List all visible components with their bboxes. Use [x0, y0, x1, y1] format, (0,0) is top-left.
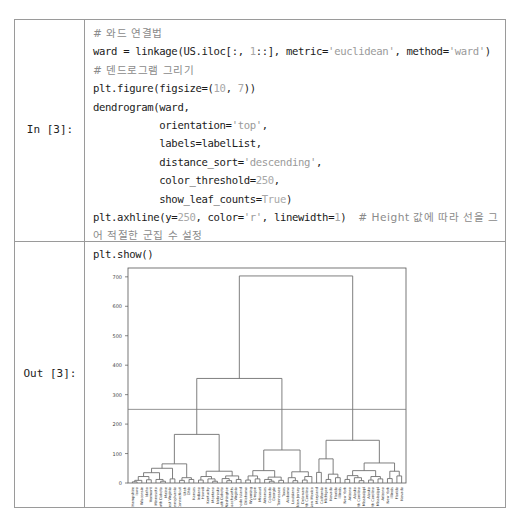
leaf-label: Illinois — [338, 487, 342, 499]
leaf-label: Florida — [395, 487, 399, 499]
leaf-label: Oregon — [253, 487, 257, 500]
leaf-label: Alaska — [367, 487, 371, 499]
leaf-label: Kentucky — [206, 486, 210, 503]
y-tick-label: 0 — [119, 480, 122, 486]
code-token: , — [262, 119, 268, 131]
leaf-label: Nebraska — [216, 487, 220, 504]
dendrogram-link — [255, 479, 260, 483]
code-token: dendrogram(ward, — [93, 101, 189, 113]
code-string: 'top' — [232, 119, 262, 131]
leaf-label: Florida — [334, 487, 338, 499]
leaf-label: New Hampshire — [131, 486, 135, 507]
output-cell: Out [3]: 0100200300400500600700New Hamps… — [15, 242, 505, 507]
leaf-label: California — [320, 487, 324, 504]
code-string: 'r' — [244, 211, 262, 223]
leaf-label: Minnesota — [154, 487, 158, 506]
code-token: orientation= — [93, 119, 232, 131]
input-prompt-column: In [3]: — [15, 20, 85, 241]
leaf-label: Colorado — [268, 487, 272, 503]
leaf-label: Idaho — [145, 487, 149, 497]
dendrogram-link — [147, 480, 152, 483]
leaf-label: Vermont — [149, 486, 153, 502]
y-tick-label: 500 — [112, 333, 122, 339]
leaf-label: Pennsylvania — [173, 487, 177, 507]
dendrogram-link — [326, 440, 379, 463]
dendrogram-link — [397, 476, 402, 483]
leaf-label: Iowa — [135, 487, 139, 495]
dendrogram-link — [189, 479, 194, 483]
dendrogram-link — [326, 479, 331, 483]
input-prompt: In [3]: — [15, 123, 85, 136]
y-tick-label: 700 — [112, 274, 122, 280]
leaf-label: Wyoming — [249, 487, 253, 504]
code-token: ) — [286, 193, 292, 205]
y-tick-label: 400 — [112, 362, 122, 368]
leaf-label: Louisiana — [291, 487, 295, 504]
code-token: show_leaf_counts= — [93, 193, 262, 205]
code-token: )) — [244, 82, 256, 94]
code-editor[interactable]: # 와드 연결법ward = linkage(US.iloc[:, 1::], … — [93, 24, 499, 263]
dendrogram-link — [246, 480, 251, 483]
code-token: ) — [485, 45, 491, 57]
code-number: 10 — [214, 82, 226, 94]
input-cell[interactable]: In [3]: # 와드 연결법ward = linkage(US.iloc[:… — [15, 20, 505, 242]
leaf-label: Maine — [164, 486, 168, 498]
leaf-label: Kansas — [192, 487, 196, 500]
leaf-label: Nevada — [329, 487, 333, 501]
code-line: dendrogram(ward, — [93, 98, 499, 116]
dendrogram-link — [336, 478, 341, 483]
code-number: True — [262, 193, 286, 205]
leaf-label: North Dakota — [159, 487, 163, 507]
code-comment: # 덴드로그램 그리기 — [93, 64, 194, 76]
code-string: 'ward' — [449, 45, 485, 57]
leaf-label: New York — [343, 486, 347, 503]
code-token: plt.figure(figsize=( — [93, 82, 214, 94]
leaf-label: Texas — [282, 487, 286, 498]
dendrogram-link — [390, 471, 399, 478]
leaf-label: Rhode Island — [239, 487, 243, 507]
leaf-label: Hawaii — [201, 487, 205, 499]
dendrogram-link — [236, 479, 241, 483]
code-number: 250 — [256, 174, 274, 186]
code-string: 'euclidean' — [328, 45, 394, 57]
leaf-label: New Jersey — [296, 486, 300, 507]
dendrogram-link — [174, 434, 219, 471]
leaf-label: Oklahoma — [244, 487, 248, 505]
code-comment: 어 적절한 군집 수 설정 — [93, 229, 203, 241]
leaf-label: Washington — [225, 487, 229, 507]
leaf-label: Mississippi — [362, 487, 366, 506]
code-comment: # 와드 연결법 — [93, 27, 163, 39]
leaf-label: Connecticut — [178, 486, 182, 507]
code-token: ) — [340, 211, 358, 223]
output-prompt-column: Out [3]: — [15, 242, 85, 507]
leaf-label: Nevada — [400, 487, 404, 501]
dendrogram-link — [302, 480, 307, 483]
leaf-label: Missouri — [258, 487, 262, 502]
leaf-label: Indiana — [197, 487, 201, 500]
dendrogram-link — [170, 479, 175, 483]
code-token: plt.axhline(y= — [93, 211, 177, 223]
dendrogram-link — [387, 479, 392, 483]
leaf-label: Tennessee — [277, 486, 281, 507]
leaf-label: Alabama — [286, 487, 290, 503]
dendrogram-link — [152, 468, 173, 479]
y-tick-label: 100 — [112, 451, 122, 457]
code-token: , linewidth= — [262, 211, 334, 223]
code-token: , — [274, 174, 280, 186]
leaf-label: Alaska — [353, 487, 357, 499]
code-string: 'descending' — [244, 156, 316, 168]
leaf-label: Arkansas — [263, 487, 267, 504]
code-token: color_threshold= — [93, 174, 256, 186]
leaf-label: Montana — [211, 487, 215, 503]
leaf-label: Illinois — [390, 487, 394, 499]
y-tick-label: 200 — [112, 421, 122, 427]
dendrogram-link — [201, 477, 212, 481]
leaf-label: Michigan — [324, 487, 328, 503]
dendrogram-link — [162, 464, 187, 478]
y-tick-label: 300 — [112, 392, 122, 398]
leaf-label: New York — [386, 486, 390, 503]
dendrogram-link — [364, 463, 394, 471]
dendrogram-link — [378, 479, 383, 483]
code-line: ward = linkage(US.iloc[:, 1::], metric='… — [93, 42, 499, 60]
code-token: ward = linkage(US.iloc[:, — [93, 45, 250, 57]
